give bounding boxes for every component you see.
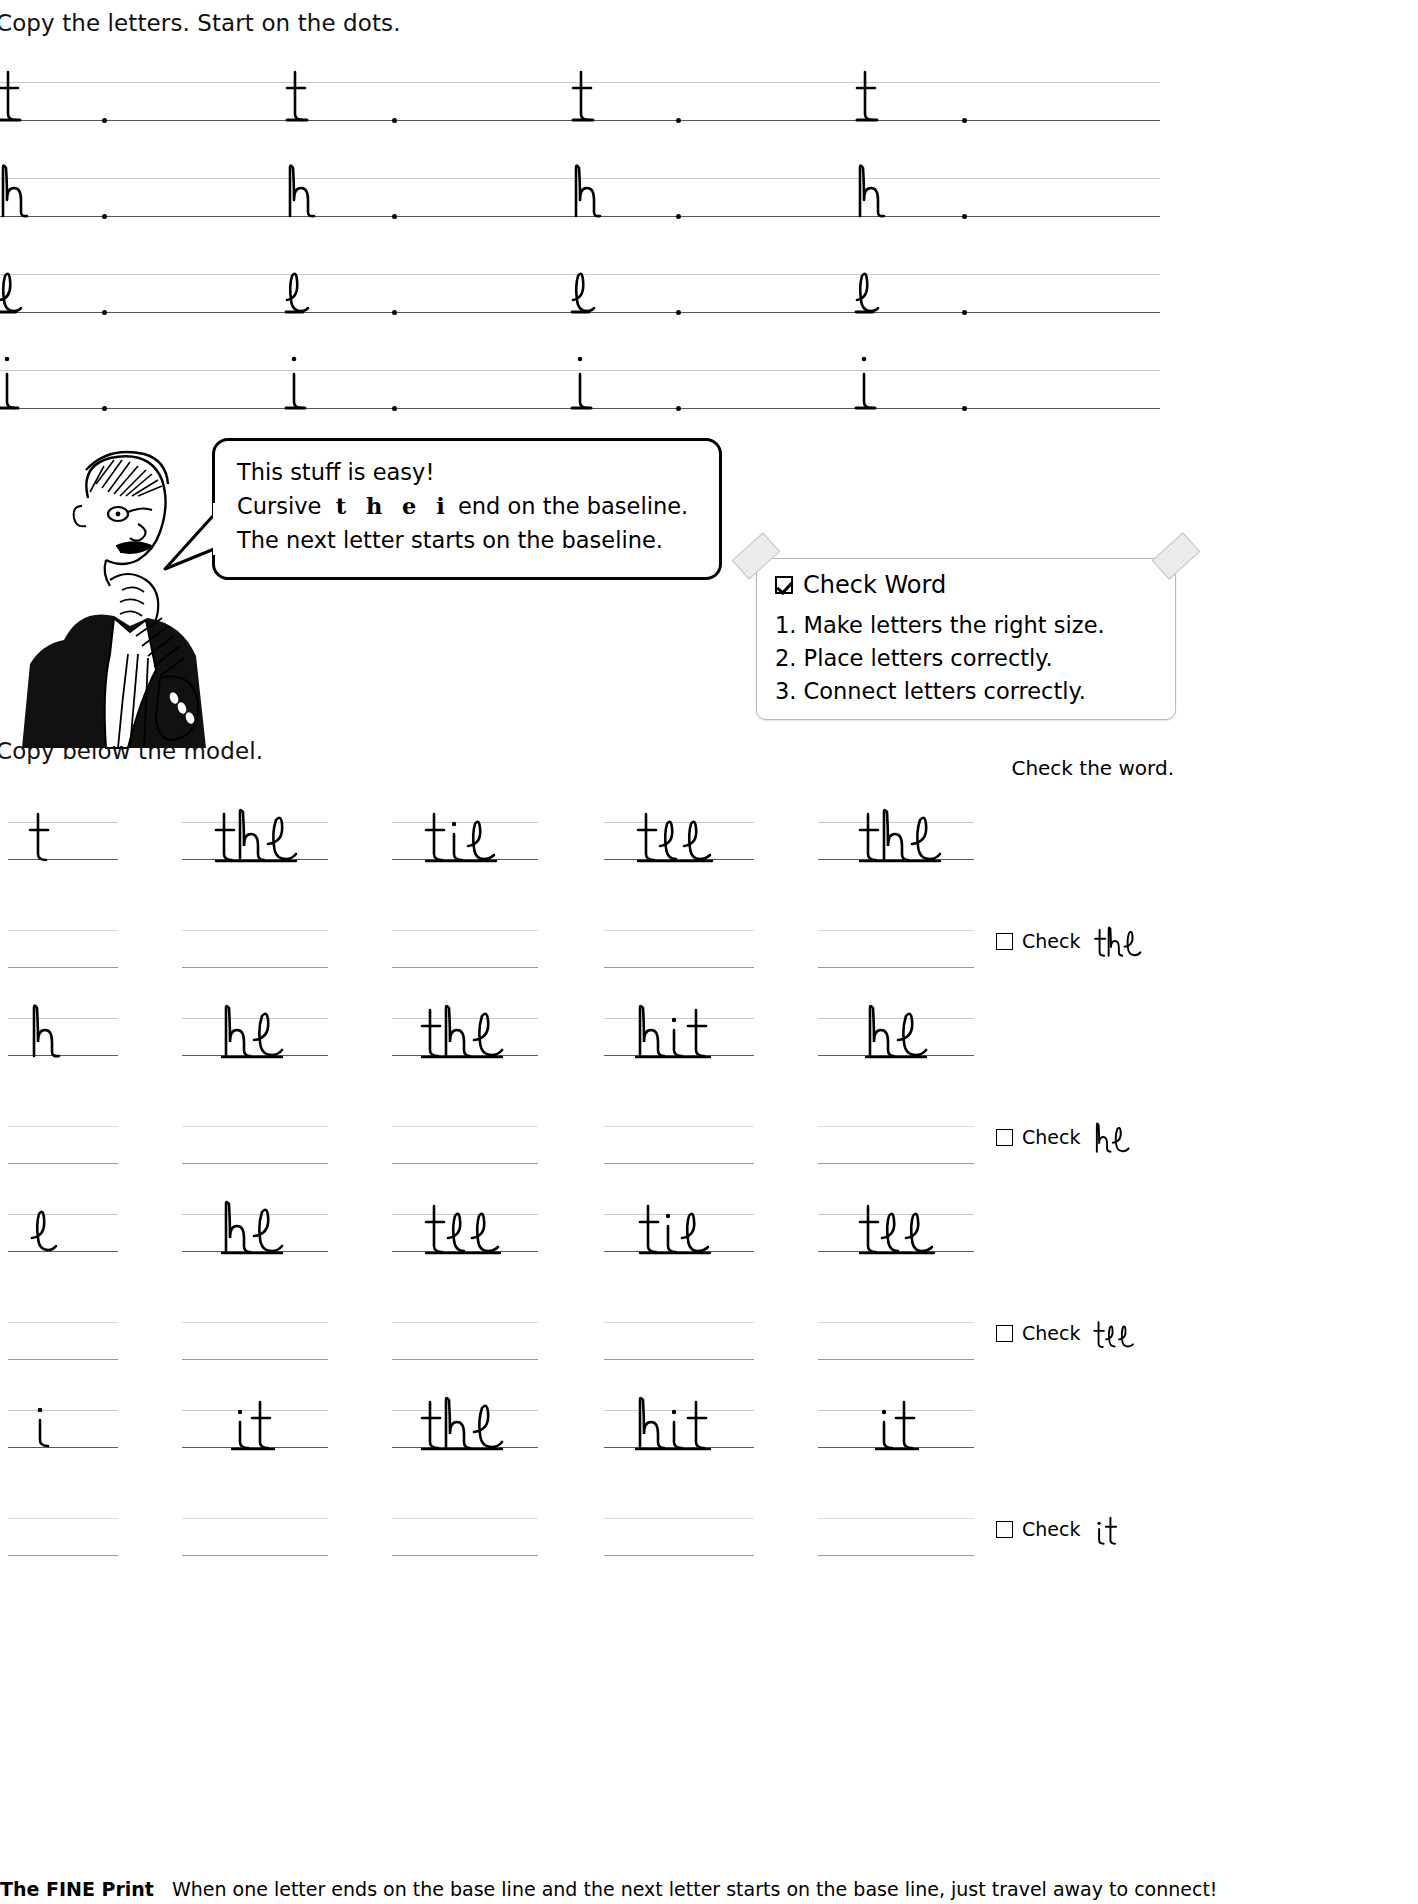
blank-write-cell[interactable] <box>182 894 328 970</box>
cursive-letter-t <box>0 70 28 122</box>
cursive-word-tee <box>632 804 736 864</box>
cursive-letter-e <box>851 270 881 314</box>
bubble-line-3: The next letter starts on the baseline. <box>237 523 688 557</box>
guide-baseline <box>604 967 754 968</box>
word-cell <box>604 1374 754 1450</box>
letter-practice-row <box>0 148 1160 232</box>
check-word-checkbox[interactable] <box>996 1325 1013 1342</box>
check-word-row[interactable]: Check <box>996 924 1149 958</box>
guide-midline <box>604 930 754 931</box>
blank-write-cell[interactable] <box>604 894 754 970</box>
cursive-word-he <box>216 1196 300 1256</box>
guide-midline <box>392 1322 538 1323</box>
check-label: Check <box>1022 1322 1080 1344</box>
blank-write-cell[interactable] <box>818 894 974 970</box>
tape-right-icon <box>1152 532 1201 579</box>
guide-midline <box>818 1322 974 1323</box>
cursive-letter-i <box>567 354 597 410</box>
check-word-checkbox[interactable] <box>996 933 1013 950</box>
tape-left-icon <box>732 532 781 579</box>
check-word-row[interactable]: Check <box>996 1512 1131 1546</box>
check-word-row[interactable]: Check <box>996 1316 1147 1350</box>
start-dot <box>102 310 107 315</box>
cursive-letter-h <box>281 162 317 218</box>
blank-write-cell[interactable] <box>182 1286 328 1362</box>
word-cell <box>818 982 974 1058</box>
blank-write-cell[interactable] <box>818 1482 974 1558</box>
check-word-checkbox[interactable] <box>996 1129 1013 1146</box>
cursive-word-the <box>414 1000 518 1060</box>
check-word-title-row: Check Word <box>775 571 946 599</box>
guide-midline <box>8 1322 118 1323</box>
check-word-row[interactable]: Check <box>996 1120 1139 1154</box>
word-cell <box>604 786 754 862</box>
cursive-word-he <box>216 1000 300 1060</box>
blank-write-cell[interactable] <box>392 894 538 970</box>
check-label: Check <box>1022 1126 1080 1148</box>
blank-write-cell[interactable] <box>8 1482 118 1558</box>
blank-write-cell[interactable] <box>818 1286 974 1362</box>
blank-write-cell[interactable] <box>818 1090 974 1166</box>
bubble-line-2: Cursive t h e i end on the baseline. <box>237 489 688 523</box>
word-cell <box>818 1374 974 1450</box>
guide-baseline <box>604 1555 754 1556</box>
start-dot <box>676 406 681 411</box>
check-word-checkbox[interactable] <box>996 1521 1013 1538</box>
cursive-letter-e <box>0 270 24 314</box>
guide-midline <box>818 1126 974 1127</box>
guide-midline <box>392 1126 538 1127</box>
cursive-word-hit <box>630 1000 734 1060</box>
check-word-checkbox-icon[interactable] <box>775 576 793 594</box>
cursive-word-tie <box>634 1196 734 1256</box>
check-word-item: 3. Connect letters correctly. <box>775 675 1105 708</box>
guide-midline <box>392 930 538 931</box>
start-dot <box>962 406 967 411</box>
cursive-word-hit <box>630 1392 734 1452</box>
word-cell <box>604 1178 754 1254</box>
word-cell <box>392 786 538 862</box>
fine-print: The FINE PrintWhen one letter ends on th… <box>0 1878 1418 1900</box>
cursive-letter-i <box>0 354 24 410</box>
blank-write-cell[interactable] <box>392 1482 538 1558</box>
fine-print-body: When one letter ends on the base line an… <box>172 1878 1218 1900</box>
cursive-word-it <box>226 1392 296 1452</box>
blank-write-cell[interactable] <box>8 1090 118 1166</box>
guide-baseline <box>604 1163 754 1164</box>
cursive-word-the <box>414 1392 518 1452</box>
word-cell <box>392 1178 538 1254</box>
blank-write-cell[interactable] <box>8 894 118 970</box>
start-dot <box>962 214 967 219</box>
word-cell <box>392 982 538 1058</box>
start-dot <box>392 310 397 315</box>
guide-midline <box>604 1126 754 1127</box>
guide-baseline <box>392 1359 538 1360</box>
word-cell <box>182 982 328 1058</box>
guide-baseline <box>182 967 328 968</box>
guide-baseline <box>182 1555 328 1556</box>
start-dot <box>392 214 397 219</box>
model-cell <box>8 786 118 862</box>
cursive-letter-e <box>24 1194 60 1256</box>
blank-write-cell[interactable] <box>604 1090 754 1166</box>
guide-midline <box>604 1518 754 1519</box>
instruction-check-the-word: Check the word. <box>1011 756 1174 780</box>
check-label: Check <box>1022 930 1080 952</box>
start-dot <box>962 310 967 315</box>
guide-baseline <box>818 967 974 968</box>
cursive-letter-i <box>281 354 311 410</box>
blank-write-cell[interactable] <box>392 1090 538 1166</box>
blank-write-cell[interactable] <box>604 1286 754 1362</box>
cursive-word-the <box>854 804 954 864</box>
guide-baseline <box>818 1359 974 1360</box>
cursive-letter-t <box>281 70 315 122</box>
blank-write-cell[interactable] <box>604 1482 754 1558</box>
speech-bubble: This stuff is easy! Cursive t h e i end … <box>212 438 722 580</box>
blank-write-cell[interactable] <box>8 1286 118 1362</box>
guide-midline <box>818 930 974 931</box>
guide-baseline <box>604 1359 754 1360</box>
blank-write-cell[interactable] <box>182 1090 328 1166</box>
check-word-item: 1. Make letters the right size. <box>775 609 1105 642</box>
guide-baseline <box>392 1555 538 1556</box>
blank-write-cell[interactable] <box>392 1286 538 1362</box>
blank-write-cell[interactable] <box>182 1482 328 1558</box>
